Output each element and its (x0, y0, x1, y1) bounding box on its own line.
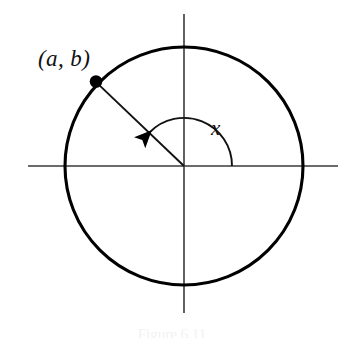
unit-circle-figure: (a, b) x Figure 6.11 (0, 0, 344, 338)
terminal-point-marker (90, 75, 103, 88)
terminal-point-label: (a, b) (38, 47, 90, 70)
radius-line (97, 83, 184, 166)
angle-label: x (211, 118, 220, 139)
figure-caption: Figure 6.11 (0, 327, 344, 338)
